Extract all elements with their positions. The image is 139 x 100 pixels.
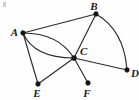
label-layer: A B C D E F xyxy=(10,0,139,99)
edge-b-d xyxy=(96,14,127,70)
edge-a-e xyxy=(23,33,38,84)
vertex-label-c: C xyxy=(80,45,88,57)
vertex-label-e: E xyxy=(32,87,40,99)
vertex-b xyxy=(94,12,99,17)
edge-c-e xyxy=(38,58,74,84)
graph-figure: A B C D E F xyxy=(0,0,139,100)
graph-canvas: A B C D E F xyxy=(0,0,139,100)
edge-c-f xyxy=(74,58,88,83)
vertex-label-a: A xyxy=(10,26,18,38)
edge-layer xyxy=(23,14,127,84)
vertex-label-b: B xyxy=(89,0,97,12)
vertex-d xyxy=(125,68,130,73)
vertex-label-f: F xyxy=(82,87,91,99)
vertex-c xyxy=(71,55,76,60)
vertex-f xyxy=(86,81,91,86)
vertex-label-d: D xyxy=(130,67,139,79)
edge-a-b xyxy=(23,14,96,33)
edge-c-d xyxy=(74,58,127,70)
vertex-a xyxy=(21,31,26,36)
